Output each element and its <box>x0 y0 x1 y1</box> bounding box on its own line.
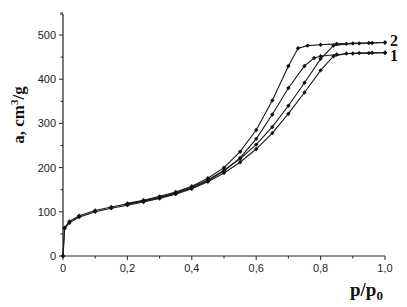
y-tick-label: 0 <box>50 250 56 262</box>
x-tick-label: 1,0 <box>377 262 392 274</box>
series-2-adsorption <box>63 43 385 256</box>
y-axis-label: a, cm3/g <box>8 86 28 144</box>
y-tick-label: 400 <box>38 73 56 85</box>
data-marker <box>306 43 310 47</box>
axes: 00,20,40,60,81,00100200300400500 <box>38 13 393 274</box>
series-2-desorption <box>127 43 385 204</box>
data-marker <box>61 254 65 258</box>
data-marker <box>296 46 300 50</box>
x-tick-label: 0 <box>60 262 66 274</box>
data-marker <box>351 51 355 55</box>
x-axis-label: p/p0 <box>350 279 383 303</box>
series-label-1: 1 <box>390 47 398 64</box>
curves <box>61 40 387 258</box>
data-marker <box>318 43 322 47</box>
y-tick-label: 500 <box>38 29 56 41</box>
data-marker <box>383 40 387 44</box>
data-marker <box>286 64 290 68</box>
x-tick-label: 0,2 <box>120 262 135 274</box>
y-tick-label: 100 <box>38 206 56 218</box>
x-tick-label: 0,4 <box>184 262 199 274</box>
data-marker <box>270 98 274 102</box>
y-tick-label: 300 <box>38 117 56 129</box>
series-1-adsorption <box>63 53 385 256</box>
data-marker <box>367 41 371 45</box>
data-marker <box>383 50 387 54</box>
x-tick-label: 0,8 <box>313 262 328 274</box>
isotherm-chart: 00,20,40,60,81,00100200300400500 a, cm3/… <box>0 0 407 307</box>
y-tick-label: 200 <box>38 162 56 174</box>
data-marker <box>351 41 355 45</box>
data-marker <box>367 51 371 55</box>
x-tick-label: 0,6 <box>249 262 264 274</box>
